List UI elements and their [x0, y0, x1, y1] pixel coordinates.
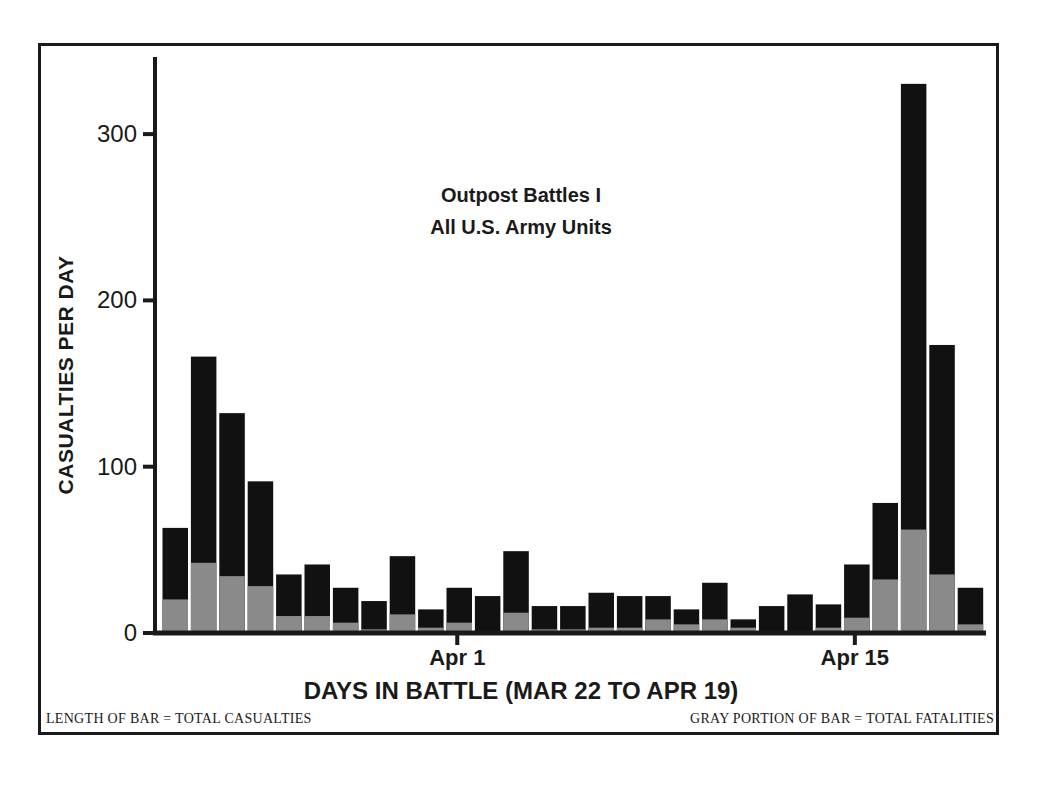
- legend-note-fatalities: GRAY PORTION OF BAR = TOTAL FATALITIES: [690, 711, 994, 727]
- bar-total-casualties: [560, 606, 586, 631]
- bar-fatalities: [674, 624, 700, 631]
- bar-total-casualties: [475, 596, 501, 631]
- bar-fatalities: [958, 624, 984, 631]
- bar-fatalities: [645, 619, 671, 631]
- bar-fatalities: [276, 616, 302, 631]
- chart-title: Outpost Battles I: [0, 184, 1042, 207]
- y-axis-label: CASUALTIES PER DAY: [54, 256, 78, 495]
- bar-fatalities: [844, 618, 870, 631]
- y-tick-label: 200: [97, 286, 137, 314]
- chart-subtitle: All U.S. Army Units: [0, 216, 1042, 239]
- bar-fatalities: [901, 530, 927, 631]
- bar-total-casualties: [589, 593, 615, 631]
- bar-fatalities: [873, 579, 899, 631]
- bar-fatalities: [191, 563, 217, 631]
- bar-total-casualties: [532, 606, 558, 631]
- bar-total-casualties: [816, 604, 842, 631]
- bar-fatalities: [447, 623, 473, 631]
- bar-fatalities: [305, 616, 331, 631]
- legend-note-casualties: LENGTH OF BAR = TOTAL CASUALTIES: [46, 711, 312, 727]
- bar-fatalities: [163, 599, 189, 631]
- bar-fatalities: [390, 614, 416, 631]
- y-tick-label: 300: [97, 120, 137, 148]
- bar-total-casualties: [617, 596, 643, 631]
- x-tick-label: Apr 1: [429, 645, 485, 671]
- bar-fatalities: [219, 576, 245, 631]
- bar-fatalities: [503, 613, 529, 631]
- bar-fatalities: [929, 574, 955, 631]
- y-tick-label: 100: [97, 453, 137, 481]
- bar-fatalities: [333, 623, 359, 631]
- bar-total-casualties: [759, 606, 785, 631]
- x-axis-label: DAYS IN BATTLE (MAR 22 TO APR 19): [0, 677, 1042, 705]
- bar-total-casualties: [361, 601, 387, 631]
- bar-group: [163, 84, 984, 631]
- x-tick-label: Apr 15: [821, 645, 889, 671]
- bar-total-casualties: [787, 594, 813, 631]
- bar-fatalities: [248, 586, 274, 631]
- bar-fatalities: [702, 619, 728, 631]
- y-tick-label: 0: [124, 619, 137, 647]
